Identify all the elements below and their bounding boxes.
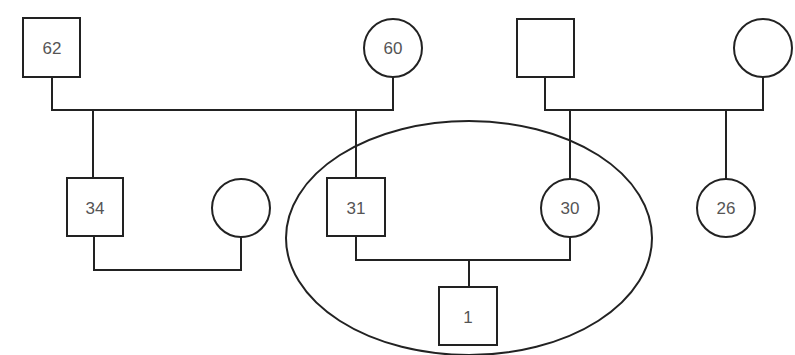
uncle-34: 34 bbox=[67, 178, 123, 236]
grandmother-maternal bbox=[734, 19, 792, 77]
mother-30: 30 bbox=[541, 179, 599, 237]
right-grandparents-connector bbox=[545, 77, 763, 179]
left-grandparents-connector bbox=[52, 77, 393, 178]
age-label: 62 bbox=[43, 39, 62, 58]
age-label: 60 bbox=[384, 39, 403, 58]
age-label: 31 bbox=[347, 199, 366, 218]
grandfather-maternal bbox=[517, 19, 574, 77]
father-31: 31 bbox=[327, 178, 385, 236]
age-label: 30 bbox=[561, 199, 580, 218]
child-1: 1 bbox=[439, 287, 497, 345]
spouse-of-34 bbox=[212, 179, 270, 237]
couple-34-connector bbox=[94, 236, 241, 270]
age-label: 1 bbox=[463, 308, 472, 327]
grandmother-paternal: 60 bbox=[364, 19, 422, 77]
couple-31-30-connector bbox=[356, 236, 570, 287]
age-label: 34 bbox=[86, 199, 105, 218]
age-label: 26 bbox=[717, 199, 736, 218]
grandfather-paternal: 62 bbox=[23, 18, 80, 77]
pedigree-diagram: 62 60 34 31 30 26 1 bbox=[0, 0, 795, 355]
aunt-26: 26 bbox=[697, 179, 755, 237]
